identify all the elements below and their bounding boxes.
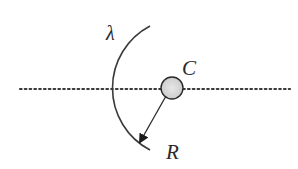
center-point <box>161 77 183 99</box>
center-label-c: C <box>182 56 197 80</box>
radius-label-r: R <box>165 140 179 164</box>
diagram-canvas: λ C R <box>0 0 298 169</box>
radius-arrow <box>140 96 166 142</box>
arc-label-lambda: λ <box>105 22 115 44</box>
